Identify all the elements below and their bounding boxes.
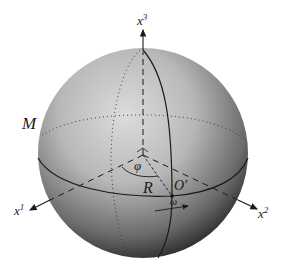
sphere-diagram: x3 x1 x2 M φ R O′ ω	[0, 0, 284, 274]
x3-label: x3	[136, 12, 148, 28]
manifold-label: M	[21, 114, 37, 133]
x1-label: x1	[13, 202, 24, 218]
radius-label: R	[142, 179, 153, 196]
diagram-canvas: x3 x1 x2 M φ R O′ ω	[0, 0, 284, 274]
omega-label: ω	[170, 196, 177, 207]
x1-axis-outer	[30, 200, 50, 210]
phi-label: φ	[134, 158, 141, 173]
x2-axis-outer	[238, 200, 257, 209]
point-label: O′	[174, 178, 188, 193]
x2-label: x2	[257, 205, 269, 221]
